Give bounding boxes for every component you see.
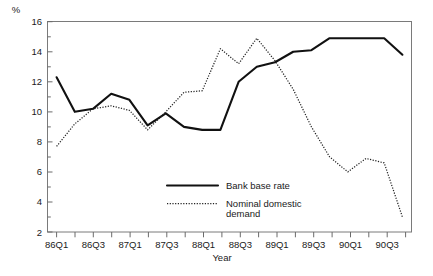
x-tick-label: 89Q3 [302,239,325,250]
x-axis-ticks [57,232,406,237]
x-tick-label: 87Q1 [118,239,141,250]
y-axis-ticks: 16 14 12 10 8 6 4 2 [31,16,52,238]
y-tick-label: 14 [31,46,42,57]
y-tick-label: 10 [31,106,42,117]
series-bank-base-rate [57,38,403,130]
y-unit-label: % [12,4,21,15]
x-axis-labels: 86Q1 86Q3 87Q1 87Q3 88Q1 88Q3 89Q1 89Q3 … [45,239,399,250]
y-tick-label: 12 [31,76,42,87]
x-tick-label: 86Q3 [82,239,105,250]
y-tick-label: 6 [37,166,42,177]
chart-figure: % 16 14 12 10 8 6 4 2 [0,0,433,276]
x-tick-label: 87Q3 [155,239,178,250]
x-tick-label: 90Q3 [376,239,399,250]
x-tick-label: 90Q1 [339,239,362,250]
chart-legend: Bank base rate Nominal domestic demand [167,180,302,219]
x-tick-label: 89Q1 [265,239,288,250]
y-tick-label: 16 [31,16,42,27]
legend-label-nominal-domestic-demand-line2: demand [226,208,260,219]
x-tick-label: 88Q1 [192,239,215,250]
x-axis-title: Year [212,252,231,263]
x-tick-label: 88Q3 [229,239,252,250]
y-tick-label: 8 [37,136,42,147]
legend-label-bank-base-rate: Bank base rate [226,180,290,191]
y-tick-label: 4 [37,196,42,207]
line-chart: % 16 14 12 10 8 6 4 2 [0,0,433,276]
x-tick-label: 86Q1 [45,239,68,250]
y-tick-label: 2 [37,227,42,238]
